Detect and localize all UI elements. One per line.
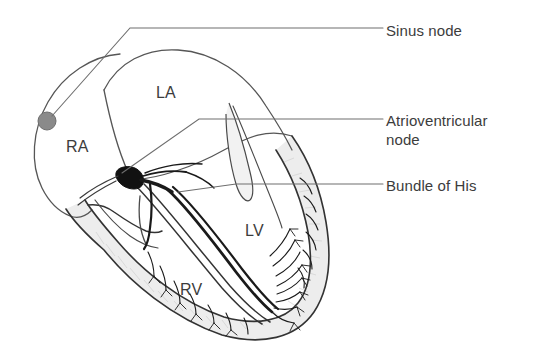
internodal-tracts bbox=[78, 176, 118, 205]
chamber-label-right-ventricle: RV bbox=[180, 281, 202, 299]
right-atrium-outline bbox=[34, 54, 120, 217]
leader-line-av-node bbox=[122, 119, 383, 173]
callout-label-bundle-of-his: Bundle of His bbox=[386, 176, 536, 195]
callout-label-atrioventricular-node: Atrioventricular node bbox=[386, 111, 538, 149]
leader-line-sinus-node bbox=[52, 28, 383, 116]
callout-label-sinus-node: Sinus node bbox=[386, 21, 536, 40]
callout-leader-lines bbox=[52, 28, 383, 192]
left-atrium-outline bbox=[104, 50, 292, 150]
papillary-muscle bbox=[139, 196, 146, 244]
chamber-label-left-atrium: LA bbox=[156, 84, 176, 102]
mitral-valve-leaflet-anterior bbox=[226, 103, 253, 201]
av-node-marker bbox=[116, 167, 144, 189]
heart-conduction-diagram: RA LA RV LV Sinus node Atrioventricular … bbox=[0, 0, 543, 363]
chamber-label-left-ventricle: LV bbox=[245, 222, 264, 240]
interatrial-septum bbox=[104, 90, 128, 172]
chamber-label-right-atrium: RA bbox=[66, 138, 89, 156]
leader-line-bundle-of-his bbox=[178, 184, 383, 192]
interventricular-septum-left bbox=[136, 186, 262, 324]
